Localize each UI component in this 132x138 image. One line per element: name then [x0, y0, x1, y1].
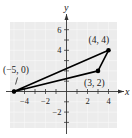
x-tick-label: 2 — [85, 96, 89, 106]
x-tick-label: −2 — [41, 96, 50, 106]
y-axis-label: y — [63, 2, 69, 13]
point-label: (4, 4) — [89, 35, 110, 46]
data-point — [106, 48, 111, 53]
y-axis-arrow-icon — [65, 14, 69, 20]
point-label: (−5, 0) — [3, 65, 29, 76]
x-axis-label: x — [124, 86, 130, 97]
data-point — [96, 69, 101, 74]
x-axis-arrow-icon — [118, 90, 124, 94]
x-tick-label: −4 — [20, 96, 30, 106]
data-point — [12, 89, 17, 94]
point-label: (3, 2) — [84, 78, 105, 89]
y-tick-label: 6 — [57, 25, 61, 35]
coordinate-plane: −4−224−246 (−5, 0)(4, 4)(3, 2) x y — [0, 0, 132, 138]
y-tick-label: −2 — [52, 107, 61, 117]
